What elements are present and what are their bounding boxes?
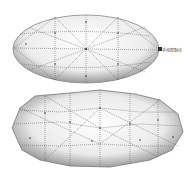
bottom-mesh	[12, 90, 183, 167]
mesh-figure	[0, 0, 195, 178]
top-mesh	[13, 15, 162, 83]
control-point-label: 手动控制点	[162, 47, 182, 53]
